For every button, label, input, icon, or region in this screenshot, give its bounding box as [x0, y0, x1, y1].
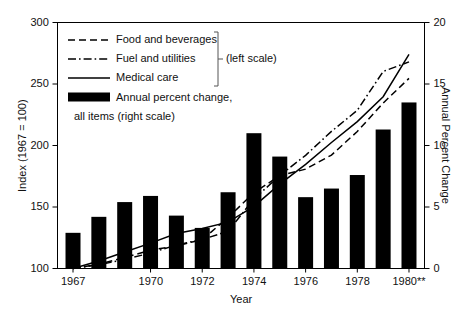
y-axis-tick-label: 150	[31, 200, 49, 212]
bar	[350, 175, 365, 268]
bar	[66, 233, 81, 269]
bar	[298, 197, 313, 268]
bar	[246, 133, 261, 268]
y2-axis-tick-label: 20	[434, 16, 446, 28]
y-axis-tick-label: 200	[31, 139, 49, 151]
bar	[169, 216, 184, 269]
x-axis-title: Year	[230, 293, 252, 305]
chart-canvas	[0, 0, 465, 309]
bar	[272, 157, 287, 269]
x-axis-tick-label: 1978	[345, 275, 369, 287]
bar	[324, 189, 339, 269]
x-axis-tick-label: 1967	[61, 275, 85, 287]
y-axis-title: Index (1967 = 100)	[16, 99, 28, 192]
x-axis-tick-label: 1974	[242, 275, 266, 287]
y-axis-tick-label: 100	[31, 262, 49, 274]
legend-label-4: all items (right scale)	[74, 110, 175, 122]
x-axis-tick-label: 1980**	[392, 275, 425, 287]
chart-figure: 1001502002503000510152019671970197219741…	[0, 0, 465, 309]
x-axis-tick-label: 1976	[294, 275, 318, 287]
bar	[143, 196, 158, 269]
legend-label-1: Fuel and utilities	[116, 52, 196, 64]
y2-axis-tick-label: 0	[434, 262, 440, 274]
bar	[376, 130, 391, 269]
legend-swatch-bars	[68, 93, 110, 102]
legend-label-0: Food and beverages	[116, 33, 217, 45]
y-axis-tick-label: 250	[31, 77, 49, 89]
legend-label-2: Medical care	[116, 71, 178, 83]
x-axis-tick-label: 1970	[139, 275, 163, 287]
legend-label-3: Annual percent change,	[116, 91, 232, 103]
bar	[195, 228, 210, 269]
y2-axis-tick-label: 5	[434, 200, 440, 212]
legend-bracket-label: (left scale)	[226, 52, 277, 64]
y2-axis-title: Annual Percent Change	[440, 87, 452, 204]
bar	[401, 102, 416, 268]
y-axis-tick-label: 300	[31, 16, 49, 28]
x-axis-tick-label: 1972	[190, 275, 214, 287]
bar-series-annual-percent-change	[66, 102, 417, 268]
